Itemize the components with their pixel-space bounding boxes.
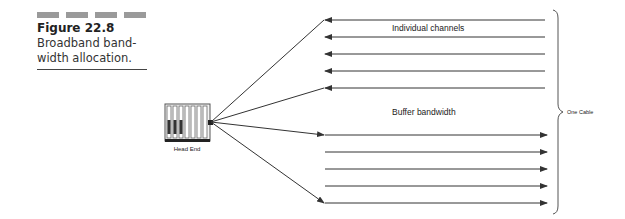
individual-channel-lines (211, 20, 545, 122)
one-cable-label: One Cable (567, 109, 593, 115)
bandwidth-diagram: Head End Individual channels Buffer band… (0, 0, 625, 219)
cable-brace-icon (553, 10, 563, 214)
head-end-icon (165, 104, 213, 142)
head-end-label: Head End (174, 146, 201, 152)
buffer-bandwidth-lines (211, 122, 547, 203)
individual-channels-label: Individual channels (392, 23, 464, 33)
buffer-bandwidth-label: Buffer bandwidth (392, 107, 456, 117)
